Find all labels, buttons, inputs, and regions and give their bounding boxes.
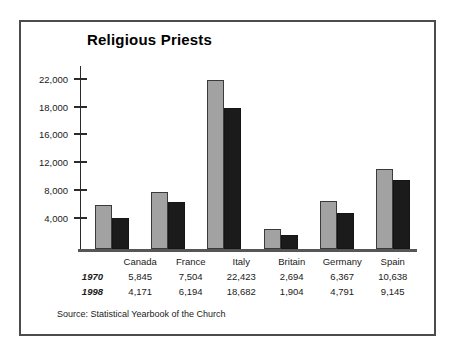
y-axis-tick bbox=[74, 217, 87, 219]
cell-canada-1998: 4,171 bbox=[115, 284, 166, 299]
plot-area: 22,00018,00016,00012,0008,0004,000 bbox=[80, 60, 417, 250]
chart-title: Religious Priests bbox=[87, 31, 212, 48]
y-axis-tick bbox=[74, 133, 87, 135]
y-axis-tick bbox=[74, 189, 87, 191]
bar-britain-1998 bbox=[281, 235, 298, 249]
y-axis-tick-label: 18,000 bbox=[39, 101, 68, 112]
bar-group bbox=[207, 60, 241, 249]
bar-group bbox=[320, 60, 354, 249]
y-axis-tick-label: 22,000 bbox=[39, 73, 68, 84]
table-header-row: CanadaFranceItalyBritainGermanySpain bbox=[41, 254, 418, 269]
column-header-italy: Italy bbox=[216, 254, 267, 269]
table-row: 19984,1716,19418,6821,9044,7919,145 bbox=[41, 284, 418, 299]
y-axis-tick bbox=[74, 106, 87, 108]
source-note: Source: Statistical Yearbook of the Chur… bbox=[57, 309, 226, 319]
row-label-1970: 1970 bbox=[41, 269, 115, 284]
cell-britain-1998: 1,904 bbox=[267, 284, 318, 299]
bar-group bbox=[151, 60, 185, 249]
column-header-britain: Britain bbox=[267, 254, 318, 269]
value-table: CanadaFranceItalyBritainGermanySpain 197… bbox=[41, 254, 418, 299]
bar-group bbox=[376, 60, 410, 249]
y-axis-tick bbox=[74, 161, 87, 163]
y-axis-tick-label: 8,000 bbox=[44, 185, 68, 196]
data-value-table: CanadaFranceItalyBritainGermanySpain 197… bbox=[41, 254, 418, 299]
bar-spain-1998 bbox=[393, 180, 410, 249]
y-axis-tick-label: 4,000 bbox=[44, 213, 68, 224]
column-header-spain: Spain bbox=[368, 254, 419, 269]
bar-italy-1970 bbox=[207, 80, 224, 249]
column-header-germany: Germany bbox=[317, 254, 368, 269]
cell-canada-1970: 5,845 bbox=[115, 269, 166, 284]
bar-canada-1970 bbox=[95, 205, 112, 249]
bar-france-1970 bbox=[151, 192, 168, 249]
y-axis-tick-label: 12,000 bbox=[39, 157, 68, 168]
chart-figure-frame: Religious Priests 22,00018,00016,00012,0… bbox=[19, 20, 436, 336]
cell-germany-1970: 6,367 bbox=[317, 269, 368, 284]
y-axis-tick-label: 16,000 bbox=[39, 129, 68, 140]
cell-france-1970: 7,504 bbox=[166, 269, 217, 284]
bar-france-1998 bbox=[168, 202, 185, 249]
y-axis-tick bbox=[74, 78, 87, 80]
table-body: 19705,8457,50422,4232,6946,36710,6381998… bbox=[41, 269, 418, 299]
cell-italy-1998: 18,682 bbox=[216, 284, 267, 299]
table-row: 19705,8457,50422,4232,6946,36710,638 bbox=[41, 269, 418, 284]
cell-france-1998: 6,194 bbox=[166, 284, 217, 299]
cell-spain-1998: 9,145 bbox=[368, 284, 419, 299]
cell-spain-1970: 10,638 bbox=[368, 269, 419, 284]
y-axis-tick-labels: 22,00018,00016,00012,0008,0004,000 bbox=[22, 60, 68, 250]
bar-spain-1970 bbox=[376, 169, 393, 249]
bar-italy-1998 bbox=[224, 108, 241, 249]
bars-layer bbox=[80, 60, 417, 250]
column-header-canada: Canada bbox=[115, 254, 166, 269]
cell-italy-1970: 22,423 bbox=[216, 269, 267, 284]
cell-germany-1998: 4,791 bbox=[317, 284, 368, 299]
row-label-1998: 1998 bbox=[41, 284, 115, 299]
table-corner-cell bbox=[41, 254, 115, 269]
bar-group bbox=[264, 60, 298, 249]
bar-germany-1970 bbox=[320, 201, 337, 249]
bar-canada-1998 bbox=[112, 218, 129, 249]
column-header-france: France bbox=[166, 254, 217, 269]
bar-group bbox=[95, 60, 129, 249]
bar-germany-1998 bbox=[337, 213, 354, 249]
cell-britain-1970: 2,694 bbox=[267, 269, 318, 284]
bar-britain-1970 bbox=[264, 229, 281, 249]
